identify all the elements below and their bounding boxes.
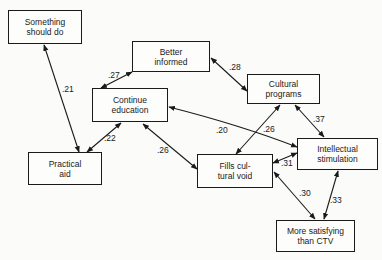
node-practical-aid: Practical aid [28,152,102,185]
node-fills-cultural-void: Fills cul- tural void [197,154,273,188]
node-label: Fills cul- tural void [218,161,253,181]
coef-fills-cultural: .26 [263,124,275,134]
coef-continue-better: .27 [108,70,120,80]
coef-fills-intellectual: .31 [281,158,293,168]
node-label: Practical aid [49,159,82,179]
coef-continue-fills: .26 [157,145,169,155]
node-label: Cultural programs [266,79,302,99]
coef-practical-continue: .22 [104,133,116,143]
coef-intellectual-continue: .20 [216,125,228,135]
coef-something-practical: .21 [62,84,74,94]
coef-cultural-intellectual: .37 [313,114,325,124]
node-label: Better informed [154,47,187,67]
node-cultural-programs: Cultural programs [247,74,320,104]
coef-fills-more: .30 [299,188,311,198]
node-better-informed: Better informed [132,41,210,72]
node-label: Something should do [25,17,66,37]
edge-continue-fills [143,124,197,169]
edge-practical-something [44,45,79,152]
node-more-satisfying: More satisfying than CTV [276,220,355,252]
edge-intellectual-continue [169,107,297,147]
coef-better-cultural: .28 [229,62,241,72]
node-continue-education: Continue education [92,88,168,122]
node-label: Continue education [112,95,149,115]
node-label: More satisfying than CTV [287,226,344,246]
node-intellectual-stimulation: Intellectual stimulation [297,138,378,170]
node-label: Intellectual stimulation [317,144,358,164]
node-something-should-do: Something should do [8,10,82,44]
coef-more-intellectual: .33 [330,195,342,205]
